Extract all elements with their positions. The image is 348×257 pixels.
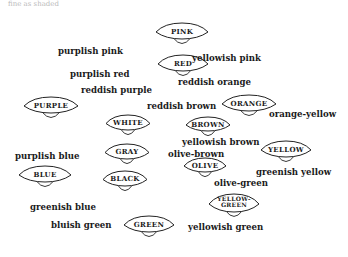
color-term-label: yellowish pink [192, 54, 261, 63]
color-term-label: reddish brown [147, 102, 216, 111]
color-node-green: GREEN [123, 215, 175, 241]
color-term-label: olive-green [214, 179, 268, 188]
color-node-label: YELLOW [260, 146, 312, 153]
cropped-caption: fine as shaded [8, 0, 59, 8]
color-node-gray: GRAY [104, 143, 150, 168]
color-node-label: YELLOW-GREEN [208, 196, 260, 208]
color-node-label: BLUE [18, 171, 72, 178]
color-node-white: WHITE [105, 114, 151, 139]
color-term-label: bluish green [51, 221, 112, 230]
color-node-label: BLACK [102, 175, 148, 182]
color-node-label: PINK [155, 28, 209, 35]
color-term-label: reddish purple [81, 86, 152, 95]
color-node-label: WHITE [105, 119, 151, 126]
color-node-purple: PURPLE [23, 96, 79, 122]
color-term-label: greenish blue [30, 203, 96, 212]
color-node-yellow-green: YELLOW-GREEN [208, 193, 260, 221]
color-node-label: BROWN [185, 121, 231, 128]
color-node-label: OLIVE [183, 162, 227, 169]
color-node-pink: PINK [155, 22, 209, 48]
color-term-label: purplish red [70, 70, 129, 79]
color-term-label: purplish pink [58, 47, 123, 56]
color-node-blue: BLUE [18, 165, 72, 191]
color-term-label: greenish yellow [256, 168, 331, 177]
color-node-label: GRAY [104, 148, 150, 155]
color-term-label: reddish orange [178, 78, 251, 87]
color-term-label: yellowish brown [182, 138, 259, 147]
color-term-label: orange-yellow [269, 110, 336, 119]
color-node-label: PURPLE [23, 102, 79, 109]
color-term-label: yellowish green [188, 223, 263, 232]
color-node-black: BLACK [102, 170, 148, 195]
color-node-yellow: YELLOW [260, 140, 312, 166]
color-node-label: ORANGE [221, 100, 277, 107]
color-term-label: purplish blue [15, 152, 79, 161]
color-term-label: olive-brown [168, 150, 224, 159]
color-node-label: GREEN [123, 221, 175, 228]
